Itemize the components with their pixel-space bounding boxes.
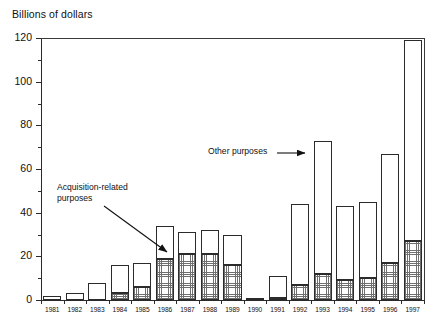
y-tick-minor-50 bbox=[38, 191, 41, 192]
plot-top-border bbox=[41, 38, 425, 39]
x-axis-label-1994: 1994 bbox=[334, 306, 357, 313]
bar-segment-acquisition-1984 bbox=[111, 293, 129, 300]
bar-segment-acquisition-1991 bbox=[269, 298, 287, 300]
x-tick-1995 bbox=[379, 300, 380, 304]
x-axis-label-1982: 1982 bbox=[64, 306, 87, 313]
plot-right-border bbox=[424, 38, 425, 301]
x-tick-1990 bbox=[266, 300, 267, 304]
bar-1982[interactable] bbox=[66, 293, 84, 300]
y-axis-label-20: 20 bbox=[0, 249, 32, 261]
x-axis-label-1989: 1989 bbox=[221, 306, 244, 313]
x-tick-1988 bbox=[221, 300, 222, 304]
y-tick-40 bbox=[36, 213, 41, 214]
x-axis-label-1991: 1991 bbox=[266, 306, 289, 313]
y-axis-label-100: 100 bbox=[0, 75, 32, 87]
y-axis-label-60: 60 bbox=[0, 162, 32, 174]
y-axis-label-0: 0 bbox=[0, 293, 32, 305]
bar-segment-acquisition-1994 bbox=[336, 280, 354, 300]
bar-segment-other-1986 bbox=[156, 226, 174, 259]
bar-segment-acquisition-1995 bbox=[359, 278, 377, 300]
bar-segment-acquisition-1990 bbox=[246, 298, 264, 300]
x-tick-1996 bbox=[401, 300, 402, 304]
y-tick-minor-110 bbox=[38, 60, 41, 61]
bar-segment-acquisition-1992 bbox=[291, 285, 309, 300]
bar-segment-other-1985 bbox=[133, 263, 151, 287]
y-tick-100 bbox=[36, 82, 41, 83]
y-tick-minor-70 bbox=[38, 147, 41, 148]
bar-1986[interactable] bbox=[156, 226, 174, 300]
x-axis-label-1987: 1987 bbox=[176, 306, 199, 313]
x-tick-origin bbox=[41, 300, 42, 304]
bar-segment-acquisition-1988 bbox=[201, 254, 219, 300]
y-tick-80 bbox=[36, 125, 41, 126]
x-tick-1991 bbox=[289, 300, 290, 304]
x-tick-1994 bbox=[356, 300, 357, 304]
bar-segment-other-1981 bbox=[43, 296, 61, 300]
bar-segment-acquisition-1993 bbox=[314, 274, 332, 300]
x-tick-1981 bbox=[64, 300, 65, 304]
x-tick-1985 bbox=[154, 300, 155, 304]
bar-1990[interactable] bbox=[246, 298, 264, 300]
bar-1981[interactable] bbox=[43, 296, 61, 300]
bar-segment-other-1993 bbox=[314, 141, 332, 274]
x-axis-label-1984: 1984 bbox=[109, 306, 132, 313]
x-tick-1989 bbox=[244, 300, 245, 304]
x-axis-label-1983: 1983 bbox=[86, 306, 109, 313]
bar-segment-other-1994 bbox=[336, 206, 354, 280]
x-axis-label-1981: 1981 bbox=[41, 306, 64, 313]
x-tick-1997 bbox=[424, 300, 425, 304]
bar-1994[interactable] bbox=[336, 206, 354, 300]
y-tick-minor-90 bbox=[38, 104, 41, 105]
x-tick-1993 bbox=[334, 300, 335, 304]
bar-segment-other-1992 bbox=[291, 204, 309, 285]
y-axis-label-120: 120 bbox=[0, 31, 32, 43]
bar-1987[interactable] bbox=[178, 232, 196, 300]
bar-segment-other-1991 bbox=[269, 276, 287, 298]
bar-segment-acquisition-1985 bbox=[133, 287, 151, 300]
bar-segment-other-1988 bbox=[201, 230, 219, 254]
bar-segment-other-1989 bbox=[223, 235, 241, 266]
x-axis-label-1988: 1988 bbox=[199, 306, 222, 313]
x-tick-1983 bbox=[109, 300, 110, 304]
bar-segment-other-1997 bbox=[404, 40, 422, 241]
bar-1993[interactable] bbox=[314, 141, 332, 300]
bar-segment-other-1987 bbox=[178, 232, 196, 254]
bar-1992[interactable] bbox=[291, 204, 309, 300]
x-axis-label-1992: 1992 bbox=[289, 306, 312, 313]
bar-1988[interactable] bbox=[201, 230, 219, 300]
bar-segment-other-1995 bbox=[359, 202, 377, 278]
x-tick-1992 bbox=[311, 300, 312, 304]
x-axis-label-1997: 1997 bbox=[401, 306, 424, 313]
x-axis-label-1996: 1996 bbox=[379, 306, 402, 313]
y-tick-60 bbox=[36, 169, 41, 170]
annotation-other-purposes: Other purposes bbox=[208, 146, 267, 157]
bar-segment-acquisition-1989 bbox=[223, 265, 241, 300]
bar-1997[interactable] bbox=[404, 40, 422, 300]
bar-segment-acquisition-1987 bbox=[178, 254, 196, 300]
x-tick-1986 bbox=[176, 300, 177, 304]
x-axis-label-1990: 1990 bbox=[244, 306, 267, 313]
y-axis-label-80: 80 bbox=[0, 118, 32, 130]
bar-1995[interactable] bbox=[359, 202, 377, 300]
bar-1991[interactable] bbox=[269, 276, 287, 300]
x-axis-label-1986: 1986 bbox=[154, 306, 177, 313]
x-tick-1987 bbox=[199, 300, 200, 304]
bar-1984[interactable] bbox=[111, 265, 129, 300]
y-tick-120 bbox=[36, 38, 41, 39]
bar-segment-acquisition-1996 bbox=[381, 263, 399, 300]
bar-segment-other-1984 bbox=[111, 265, 129, 293]
bar-1989[interactable] bbox=[223, 235, 241, 301]
bar-segment-other-1982 bbox=[66, 293, 84, 300]
x-axis-label-1993: 1993 bbox=[311, 306, 334, 313]
y-tick-minor-30 bbox=[38, 235, 41, 236]
x-tick-1982 bbox=[86, 300, 87, 304]
bar-1983[interactable] bbox=[88, 283, 106, 300]
bar-segment-other-1996 bbox=[381, 154, 399, 263]
y-tick-minor-10 bbox=[38, 278, 41, 279]
x-axis-label-1995: 1995 bbox=[356, 306, 379, 313]
chart-figure: Billions of dollars 020406080100120 1981… bbox=[0, 0, 436, 326]
bar-1996[interactable] bbox=[381, 154, 399, 300]
bar-1985[interactable] bbox=[133, 263, 151, 300]
y-tick-20 bbox=[36, 256, 41, 257]
bar-segment-acquisition-1986 bbox=[156, 259, 174, 300]
